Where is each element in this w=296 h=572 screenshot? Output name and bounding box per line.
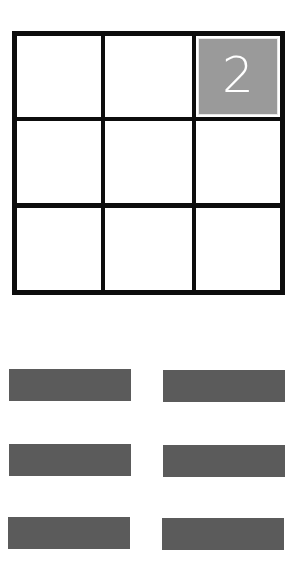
board-cell-r1-c3[interactable]: 2	[196, 36, 280, 117]
control-bar-r2-right[interactable]	[163, 445, 285, 477]
board-cell-r1-c2[interactable]	[105, 36, 192, 117]
board-cell-r2-c1[interactable]	[17, 121, 101, 203]
board-cell-r3-c3[interactable]	[196, 208, 280, 290]
control-bar-r1-left[interactable]	[9, 369, 131, 401]
game-board: 2	[12, 31, 285, 295]
board-cell-r2-c3[interactable]	[196, 121, 280, 203]
control-bar-r3-left[interactable]	[8, 517, 130, 549]
board-cell-r3-c1[interactable]	[17, 208, 101, 290]
control-bar-r3-right[interactable]	[162, 518, 284, 550]
number-tile[interactable]: 2	[198, 38, 278, 115]
control-bar-r1-right[interactable]	[163, 370, 285, 402]
board-cell-r2-c2[interactable]	[105, 121, 192, 203]
board-cell-r3-c2[interactable]	[105, 208, 192, 290]
board-cell-r1-c1[interactable]	[17, 36, 101, 117]
control-bar-r2-left[interactable]	[9, 444, 131, 476]
